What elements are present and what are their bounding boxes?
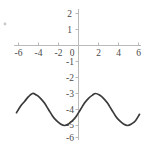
artifact-speck <box>4 23 7 26</box>
y-tick-label-minus4: -4 <box>66 105 74 115</box>
plot-area: -6 -4 -2 0 2 4 6 2 1 -1 -2 -3 -4 -5 -6 <box>0 0 147 144</box>
y-tick-label-minus6: -6 <box>66 133 74 143</box>
y-tick-label-minus2: -2 <box>66 73 74 83</box>
x-tick-label-minus4: -4 <box>35 48 43 58</box>
x-tick-label-4: 4 <box>116 48 121 58</box>
y-tick-label-minus3: -3 <box>66 89 74 99</box>
x-tick-label-2: 2 <box>96 48 101 58</box>
x-tick-label-minus6: -6 <box>15 48 23 58</box>
x-tick-label-6: 6 <box>136 48 141 58</box>
sinusoid-chart-figure: -6 -4 -2 0 2 4 6 2 1 -1 -2 -3 -4 -5 -6 <box>0 0 147 144</box>
x-tick-label-minus2: -2 <box>55 48 63 58</box>
y-tick-label-2: 2 <box>67 9 72 19</box>
y-tick-label-minus1: -1 <box>66 57 74 67</box>
y-tick-label-1: 1 <box>67 25 72 35</box>
